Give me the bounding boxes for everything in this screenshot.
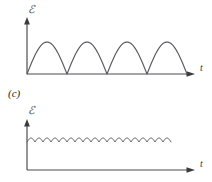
x-axis-label-bottom: t	[200, 159, 203, 169]
waveform-filtered-ripple	[27, 138, 171, 142]
x-axis-bottom	[27, 167, 195, 173]
y-axis-label-bottom: ℰ	[28, 105, 35, 116]
plot-filtered-ripple	[0, 0, 212, 182]
figure-container: ℰ t (c) ℰ t	[0, 0, 212, 182]
y-axis-arrowhead-bottom	[24, 119, 30, 127]
x-axis-arrowhead-bottom	[187, 167, 196, 173]
y-axis-bottom	[24, 119, 30, 170]
